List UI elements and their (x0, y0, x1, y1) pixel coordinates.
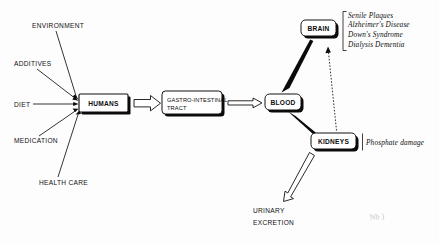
connector-environment (56, 31, 79, 100)
brain-effect-item-0: Senile Plaques (348, 11, 393, 20)
input-label-health-care: HEALTH CARE (39, 179, 88, 186)
output-urinary-line2: EXCRETION (253, 219, 294, 226)
brain-effect-item-1: Alzheimer's Disease (347, 20, 410, 29)
node-blood-label: BLOOD (270, 99, 295, 106)
brain-effect-item-2: Down's Syndrome (347, 30, 403, 39)
node-brain[interactable]: BRAIN (301, 20, 339, 39)
handwritten-marginalia: Nb ) (369, 211, 385, 221)
node-kidneys[interactable]: KIDNEYS (311, 133, 359, 152)
node-gastro-intestinal-tract[interactable]: GASTRO-INTESTINAL TRACT (162, 91, 227, 117)
output-urinary-line1: URINARY (253, 207, 285, 214)
node-gi-label-line2: TRACT (167, 105, 187, 111)
kidney-effect-label: Phosphate damage (365, 138, 425, 147)
brain-effect-item-3: Dialysis Dementia (347, 40, 405, 49)
node-kidneys-label: KIDNEYS (318, 138, 349, 145)
node-humans[interactable]: HUMANS (79, 94, 131, 115)
input-label-additives: ADDITIVES (14, 60, 52, 67)
input-label-environment: ENVIRONMENT (32, 22, 84, 29)
brain-effects-group: Senile Plaques Alzheimer's Disease Down'… (343, 11, 410, 51)
connector-diet (33, 102, 79, 106)
node-gi-label-line1: GASTRO-INTESTINAL (167, 97, 227, 103)
wedge-blood-to-kidneys (288, 112, 317, 136)
brain-effects-brace (343, 12, 347, 51)
arrow-gi-to-blood (228, 98, 262, 108)
node-blood[interactable]: BLOOD (265, 94, 304, 113)
input-label-diet: DIET (14, 101, 30, 108)
diagram-svg: HUMANS GASTRO-INTESTINAL TRACT BLOOD BRA… (0, 0, 439, 245)
arrow-humans-to-gi (134, 96, 161, 111)
node-humans-label: HUMANS (88, 100, 119, 107)
node-brain-label: BRAIN (307, 25, 329, 32)
wedge-blood-to-brain (282, 40, 314, 93)
output-urinary-excretion: URINARY EXCRETION (253, 207, 294, 226)
dotted-arrow-kidneys-to-brain (325, 47, 336, 131)
input-connectors (33, 31, 81, 177)
flow-diagram-canvas: HUMANS GASTRO-INTESTINAL TRACT BLOOD BRA… (0, 0, 439, 245)
arrow-kidneys-to-urinary (284, 153, 315, 202)
kidney-effect-group: Phosphate damage (363, 134, 425, 151)
input-label-medication: MEDICATION (14, 137, 58, 144)
